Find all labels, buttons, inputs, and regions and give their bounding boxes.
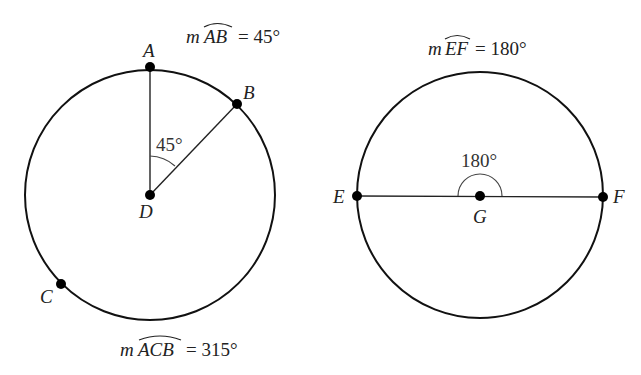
label-E: E xyxy=(332,186,345,207)
label-C: C xyxy=(40,286,53,307)
left-figure: A B C D 45° m AB = 45° m ACB = 315° xyxy=(25,24,280,361)
label-A: A xyxy=(141,40,155,61)
point-G xyxy=(475,191,485,201)
svg-text:m: m xyxy=(186,26,200,47)
svg-text:EF: EF xyxy=(444,38,469,59)
svg-text:ACB: ACB xyxy=(136,339,174,360)
label-D: D xyxy=(138,201,153,222)
label-G: G xyxy=(473,206,487,227)
svg-text:= 45°: = 45° xyxy=(238,26,280,47)
point-D xyxy=(145,190,155,200)
label-B: B xyxy=(243,82,255,103)
right-figure: E F G 180° m EF = 180° xyxy=(332,36,625,319)
point-C xyxy=(56,279,66,289)
svg-text:= 315°: = 315° xyxy=(186,339,238,360)
svg-text:m: m xyxy=(428,38,442,59)
angle-arc-45 xyxy=(150,156,175,166)
point-E xyxy=(352,191,362,201)
arc-measure-ACB: m ACB = 315° xyxy=(120,336,238,360)
arc-measure-AB: m AB = 45° xyxy=(186,24,280,48)
arc-measure-EF: m EF = 180° xyxy=(428,36,527,60)
svg-text:= 180°: = 180° xyxy=(475,38,527,59)
angle-label-45: 45° xyxy=(156,134,183,155)
point-B xyxy=(232,99,242,109)
svg-text:m: m xyxy=(120,339,134,360)
point-F xyxy=(598,192,608,202)
label-F: F xyxy=(612,186,625,207)
point-A xyxy=(145,62,155,72)
diagram-canvas: A B C D 45° m AB = 45° m ACB = 315° E F … xyxy=(0,0,641,375)
svg-text:AB: AB xyxy=(202,26,228,47)
angle-label-180: 180° xyxy=(461,150,497,171)
